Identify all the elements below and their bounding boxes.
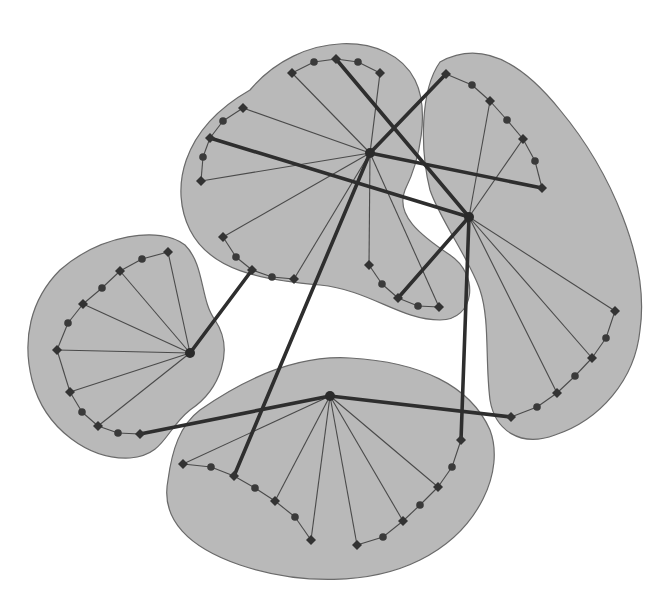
node-circle[interactable] — [78, 408, 86, 416]
node-circle[interactable] — [207, 463, 215, 471]
node-circle[interactable] — [138, 255, 146, 263]
node-circle[interactable] — [379, 533, 387, 541]
node-circle[interactable] — [416, 501, 424, 509]
graph-canvas — [0, 0, 665, 596]
cluster-layer — [28, 44, 642, 580]
node-circle[interactable] — [268, 273, 276, 281]
node-circle[interactable] — [199, 153, 207, 161]
node-circle[interactable] — [571, 372, 579, 380]
hub-node-right[interactable] — [464, 212, 474, 222]
node-circle[interactable] — [533, 403, 541, 411]
node-circle[interactable] — [232, 253, 240, 261]
hub-node-top[interactable] — [365, 148, 375, 158]
node-circle[interactable] — [414, 302, 422, 310]
node-circle[interactable] — [448, 463, 456, 471]
hub-node-bottom[interactable] — [325, 391, 335, 401]
node-circle[interactable] — [602, 334, 610, 342]
node-circle[interactable] — [98, 284, 106, 292]
node-circle[interactable] — [310, 58, 318, 66]
node-circle[interactable] — [251, 484, 259, 492]
node-circle[interactable] — [354, 58, 362, 66]
node-circle[interactable] — [219, 117, 227, 125]
cluster-right — [423, 53, 641, 439]
node-circle[interactable] — [503, 116, 511, 124]
node-circle[interactable] — [291, 513, 299, 521]
node-circle[interactable] — [378, 280, 386, 288]
hub-node-left[interactable] — [185, 348, 195, 358]
clustered-graph-diagram — [0, 0, 665, 596]
node-circle[interactable] — [114, 429, 122, 437]
node-circle[interactable] — [468, 81, 476, 89]
node-circle[interactable] — [64, 319, 72, 327]
node-circle[interactable] — [531, 157, 539, 165]
